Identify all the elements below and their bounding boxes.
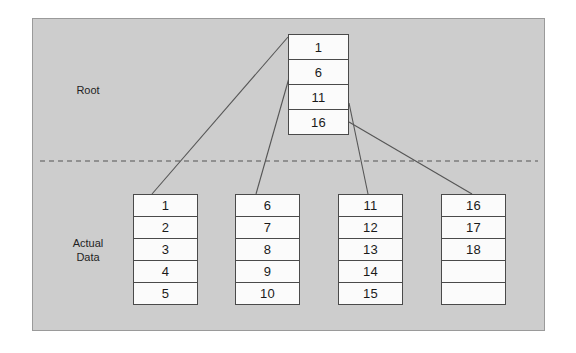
leaf-node-2: 11 12 13 14 15 [338, 194, 403, 305]
leaf-cell: 15 [339, 283, 402, 304]
leaf-cell: 17 [442, 217, 505, 239]
leaf-cell: 3 [134, 239, 197, 261]
leaf-cell: 12 [339, 217, 402, 239]
leaf-cell: 5 [134, 283, 197, 304]
leaf-cell: 13 [339, 239, 402, 261]
leaf-cell: 14 [339, 261, 402, 283]
leaf-cell: 8 [236, 239, 299, 261]
root-cell: 6 [289, 60, 348, 85]
leaf-cell: 9 [236, 261, 299, 283]
leaf-cell-empty [442, 283, 505, 304]
leaf-node-1: 6 7 8 9 10 [235, 194, 300, 305]
leaf-cell: 7 [236, 217, 299, 239]
root-cell: 16 [289, 110, 348, 134]
leaf-cell: 4 [134, 261, 197, 283]
leaf-cell-empty [442, 261, 505, 283]
label-root: Root [52, 83, 124, 97]
leaf-cell: 2 [134, 217, 197, 239]
leaf-cell: 16 [442, 195, 505, 217]
btree-diagram: Root Actual Data 1 6 11 16 1 2 3 4 5 6 7… [0, 0, 576, 353]
leaf-node-3: 16 17 18 [441, 194, 506, 305]
leaf-cell: 6 [236, 195, 299, 217]
root-cell: 1 [289, 35, 348, 60]
root-node: 1 6 11 16 [288, 34, 349, 135]
leaf-cell: 10 [236, 283, 299, 304]
label-actual-data: Actual Data [52, 236, 124, 264]
leaf-node-0: 1 2 3 4 5 [133, 194, 198, 305]
leaf-cell: 1 [134, 195, 197, 217]
leaf-cell: 11 [339, 195, 402, 217]
root-cell: 11 [289, 85, 348, 110]
leaf-cell: 18 [442, 239, 505, 261]
